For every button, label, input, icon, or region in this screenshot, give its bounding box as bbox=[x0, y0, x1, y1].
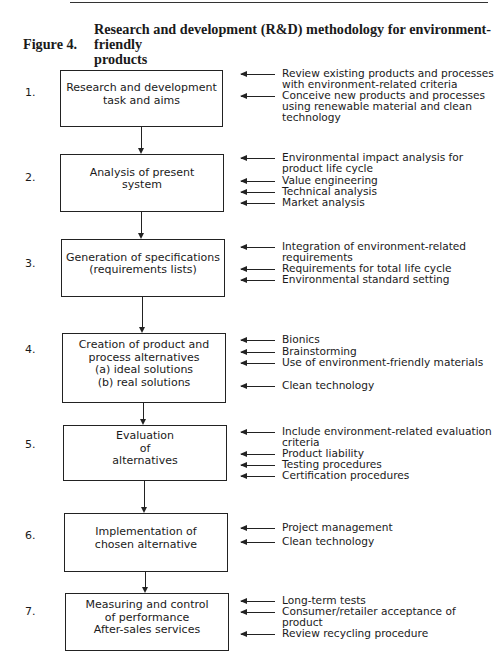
step-7-input-2: Consumer/retailer acceptance of product bbox=[282, 606, 497, 628]
step-6-input-2: Clean technology bbox=[282, 536, 497, 547]
step-number-1: 1. bbox=[25, 86, 36, 99]
flow-connector bbox=[145, 572, 146, 587]
input-arrow-icon bbox=[241, 158, 275, 159]
step-number-7: 7. bbox=[25, 605, 36, 618]
input-arrow-icon bbox=[241, 203, 275, 204]
step-3-input-3: Environmental standard setting bbox=[282, 274, 497, 285]
step-box-1-line: Research and development bbox=[66, 82, 217, 95]
flow-connector bbox=[144, 481, 145, 507]
step-5-input-4: Certification procedures bbox=[282, 470, 497, 481]
figure-title-line1: Research and development (R&D) methodolo… bbox=[94, 22, 491, 52]
step-box-6-line: chosen alternative bbox=[95, 539, 197, 552]
step-number-6: 6. bbox=[25, 529, 36, 542]
input-arrow-icon bbox=[241, 601, 275, 602]
step-box-7-line: After-sales services bbox=[94, 624, 200, 637]
step-box-4: Creation of product and process alternat… bbox=[62, 333, 226, 403]
step-box-1-line: task and aims bbox=[103, 95, 180, 108]
step-box-5-line: Evaluation bbox=[116, 430, 174, 443]
input-arrow-icon bbox=[241, 634, 275, 635]
input-arrow-icon bbox=[241, 96, 275, 97]
input-arrow-icon bbox=[241, 476, 275, 477]
step-7-input-3: Review recycling procedure bbox=[282, 628, 497, 639]
step-box-6: Implementation of chosen alternative bbox=[64, 513, 228, 572]
step-2-input-1: Environmental impact analysis for produc… bbox=[282, 152, 497, 174]
step-box-1: Research and development task and aims bbox=[60, 70, 223, 127]
input-arrow-icon bbox=[241, 340, 275, 341]
step-number-2: 2. bbox=[25, 171, 36, 184]
input-arrow-icon bbox=[241, 542, 275, 543]
step-box-5-line: alternatives bbox=[112, 455, 177, 468]
input-arrow-icon bbox=[241, 74, 275, 75]
step-1-input-2: Conceive new products and processes usin… bbox=[282, 90, 497, 124]
step-4-input-1: Bionics bbox=[282, 334, 497, 345]
step-3-input-1: Integration of environment-related requi… bbox=[282, 241, 497, 263]
flow-connector bbox=[141, 127, 142, 148]
input-arrow-icon bbox=[241, 454, 275, 455]
input-arrow-icon bbox=[241, 247, 275, 248]
input-arrow-icon bbox=[241, 269, 275, 270]
step-box-4-line: Creation of product and bbox=[79, 339, 210, 352]
step-1-input-1: Review existing products and processes w… bbox=[282, 68, 497, 90]
input-arrow-icon bbox=[241, 181, 275, 182]
step-6-input-1: Project management bbox=[282, 522, 497, 533]
step-box-2-line: system bbox=[122, 179, 162, 192]
step-number-4: 4. bbox=[25, 343, 36, 356]
figure-title-line2: products bbox=[23, 52, 493, 67]
step-box-7: Measuring and control of performance Aft… bbox=[65, 593, 229, 651]
input-arrow-icon bbox=[241, 192, 275, 193]
step-4-input-4: Clean technology bbox=[282, 380, 497, 391]
input-arrow-icon bbox=[241, 363, 275, 364]
step-4-input-3: Use of environment-friendly materials bbox=[282, 357, 497, 368]
top-rule bbox=[70, 2, 488, 3]
input-arrow-icon bbox=[241, 465, 275, 466]
step-number-5: 5. bbox=[25, 438, 36, 451]
step-number-3: 3. bbox=[25, 257, 36, 270]
flow-connector bbox=[142, 297, 143, 327]
step-box-3-line: (requirements lists) bbox=[89, 264, 197, 277]
input-arrow-icon bbox=[241, 352, 275, 353]
step-box-3: Generation of specifications (requiremen… bbox=[61, 239, 225, 297]
input-arrow-icon bbox=[241, 432, 275, 433]
flow-connector bbox=[141, 212, 142, 233]
input-arrow-icon bbox=[241, 612, 275, 613]
input-arrow-icon bbox=[241, 280, 275, 281]
step-box-6-line: Implementation of bbox=[95, 526, 196, 539]
input-arrow-icon bbox=[241, 528, 275, 529]
figure-caption: Figure 4.Research and development (R&D) … bbox=[23, 22, 493, 67]
step-box-4-line: (b) real solutions bbox=[98, 377, 191, 390]
input-arrow-icon bbox=[241, 386, 275, 387]
step-box-5: Evaluation of alternatives bbox=[63, 425, 227, 481]
step-5-input-1: Include environment-related evaluation c… bbox=[282, 426, 497, 448]
flow-connector bbox=[143, 403, 144, 419]
figure-label: Figure 4. bbox=[23, 37, 94, 52]
step-box-7-line: Measuring and control bbox=[85, 599, 208, 612]
step-2-input-4: Market analysis bbox=[282, 197, 497, 208]
step-box-4-line: (a) ideal solutions bbox=[95, 364, 193, 377]
step-box-2: Analysis of present system bbox=[60, 154, 224, 212]
